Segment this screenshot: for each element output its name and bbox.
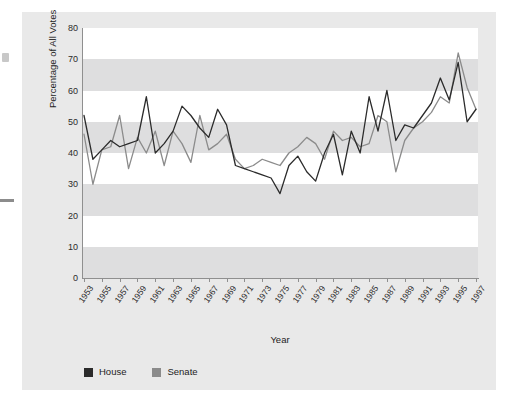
x-axis-tick xyxy=(476,278,477,282)
legend-swatch-icon xyxy=(152,368,161,377)
x-axis-tick xyxy=(369,278,370,282)
scan-artifact xyxy=(2,53,9,62)
x-axis-tick-label: 1961 xyxy=(148,284,166,305)
x-axis-tick xyxy=(333,278,334,282)
x-axis-tick-label: 1993 xyxy=(434,284,452,305)
x-axis-tick-label: 1953 xyxy=(77,284,95,305)
x-axis-tick-label: 1969 xyxy=(220,284,238,305)
x-axis-tick-label: 1963 xyxy=(166,284,184,305)
x-axis-tick xyxy=(155,278,156,282)
x-axis-tick-label: 1955 xyxy=(95,284,113,305)
x-axis-tick xyxy=(227,278,228,282)
y-axis-tick-label: 0 xyxy=(73,274,78,283)
x-axis-tick-label: 1959 xyxy=(131,284,149,305)
x-axis-tick xyxy=(209,278,210,282)
plot-lines xyxy=(82,28,478,278)
x-axis-tick-label: 1975 xyxy=(273,284,291,305)
x-axis-title: Year xyxy=(82,334,478,345)
x-axis-tick-label: 1967 xyxy=(202,284,220,305)
x-axis-tick xyxy=(244,278,245,282)
y-axis-tick-label: 20 xyxy=(68,212,78,221)
y-axis-tick-label: 10 xyxy=(68,243,78,252)
chart-figure-panel: 01020304050607080 Percentage of All Vote… xyxy=(22,12,496,390)
x-axis-tick xyxy=(458,278,459,282)
x-axis-tick xyxy=(387,278,388,282)
x-axis-tick-label: 1997 xyxy=(469,284,487,305)
y-axis-tick-label: 40 xyxy=(68,149,78,158)
x-axis-tick xyxy=(351,278,352,282)
series-line-house xyxy=(84,62,476,193)
legend-entry-house[interactable]: House xyxy=(84,367,126,377)
x-axis-tick xyxy=(191,278,192,282)
x-axis-tick xyxy=(280,278,281,282)
chart-legend: HouseSenate xyxy=(84,367,198,377)
x-axis-tick-label: 1977 xyxy=(291,284,309,305)
x-axis-tick-label: 1965 xyxy=(184,284,202,305)
y-axis-line xyxy=(82,28,83,279)
x-axis-tick xyxy=(316,278,317,282)
x-axis-tick-label: 1957 xyxy=(113,284,131,305)
y-axis-tick-label: 70 xyxy=(68,55,78,64)
x-axis-tick-label: 1995 xyxy=(451,284,469,305)
x-axis-tick-label: 1979 xyxy=(309,284,327,305)
series-line-senate xyxy=(84,53,476,184)
scan-artifact xyxy=(0,199,14,202)
x-axis-tick xyxy=(423,278,424,282)
x-axis-tick-label: 1973 xyxy=(255,284,273,305)
legend-label: House xyxy=(99,367,126,377)
y-axis-tick-label: 50 xyxy=(68,118,78,127)
x-axis-tick xyxy=(262,278,263,282)
x-axis-tick xyxy=(173,278,174,282)
x-axis-tick xyxy=(440,278,441,282)
legend-swatch-icon xyxy=(84,368,93,377)
x-axis-tick-label: 1981 xyxy=(327,284,345,305)
y-axis-title: Percentage of All Votes xyxy=(48,10,58,108)
x-axis-tick xyxy=(102,278,103,282)
legend-label: Senate xyxy=(167,367,197,377)
x-axis-tick xyxy=(120,278,121,282)
x-axis-tick-label: 1987 xyxy=(380,284,398,305)
x-axis-tick-label: 1983 xyxy=(344,284,362,305)
y-axis-tick-label: 60 xyxy=(68,87,78,96)
x-axis-tick xyxy=(84,278,85,282)
legend-entry-senate[interactable]: Senate xyxy=(152,367,197,377)
x-axis-tick-label: 1971 xyxy=(238,284,256,305)
y-axis-tick-label: 30 xyxy=(68,180,78,189)
y-axis-tick-label: 80 xyxy=(68,24,78,33)
x-axis-tick-label: 1985 xyxy=(362,284,380,305)
x-axis-tick xyxy=(405,278,406,282)
plot-area xyxy=(82,28,478,278)
x-axis-tick xyxy=(137,278,138,282)
x-axis-tick-label: 1991 xyxy=(416,284,434,305)
x-axis-tick xyxy=(298,278,299,282)
x-axis-tick-label: 1989 xyxy=(398,284,416,305)
